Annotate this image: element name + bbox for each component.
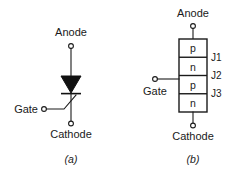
panel-a-gate-label: Gate <box>14 103 38 115</box>
panel-b-gate-terminal[interactable] <box>153 77 158 82</box>
panel-b-junction-label-j3: J3 <box>211 88 222 99</box>
panel-b-junction-label-j2: J2 <box>211 70 222 81</box>
figure-canvas: Anode Cathode Gate (a) <box>0 0 250 178</box>
thyristor-figure: Anode Cathode Gate (a) <box>0 0 250 178</box>
panel-b-layer-4: n <box>190 97 196 109</box>
panel-b-caption: (b) <box>187 153 200 165</box>
panel-a-gate-terminal[interactable] <box>42 107 47 112</box>
panel-a-anode-triangle <box>61 76 81 93</box>
panel-b-anode-terminal[interactable] <box>191 24 196 29</box>
panel-b-layer-1: p <box>190 42 196 54</box>
panel-b-layer-2: n <box>190 61 196 73</box>
panel-a-gate-lead <box>46 95 76 109</box>
panel-a-anode-label: Anode <box>55 26 87 38</box>
panel-b-structure: Anode p n p n J1 J2 J3 G <box>143 7 222 165</box>
panel-a-symbol: Anode Cathode Gate (a) <box>14 26 92 165</box>
panel-b-anode-label: Anode <box>177 7 209 19</box>
panel-a-cathode-terminal[interactable] <box>69 121 74 126</box>
panel-a-cathode-label: Cathode <box>50 128 92 140</box>
panel-b-junction-label-j1: J1 <box>211 52 222 63</box>
panel-b-layer-3: p <box>190 79 196 91</box>
panel-a-caption: (a) <box>65 153 78 165</box>
panel-b-cathode-terminal[interactable] <box>191 123 196 128</box>
panel-b-gate-label: Gate <box>143 85 167 97</box>
panel-b-cathode-label: Cathode <box>172 130 214 142</box>
panel-a-anode-terminal[interactable] <box>69 44 74 49</box>
